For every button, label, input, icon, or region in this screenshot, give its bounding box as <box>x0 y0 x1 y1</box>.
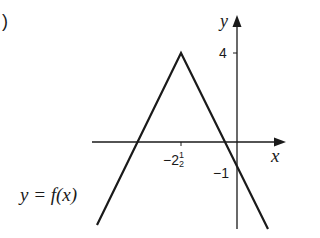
y-axis-arrow-icon <box>233 15 242 27</box>
x-axis <box>92 138 286 147</box>
fraction-denominator: 2 <box>179 160 184 169</box>
x-tick-label-neg2-half: −2 1 2 <box>163 151 184 169</box>
function-curve <box>97 53 268 229</box>
y-axis-label: y <box>220 12 228 30</box>
y-tick-label-neg1: −1 <box>213 166 229 180</box>
curve-label: y = f(x) <box>20 185 77 204</box>
x-tick-fraction: 1 2 <box>179 151 184 169</box>
y-axis <box>233 15 242 229</box>
y-tick-label-4: 4 <box>219 46 227 60</box>
x-axis-label: x <box>271 146 279 165</box>
x-tick-whole: −2 <box>163 152 179 168</box>
